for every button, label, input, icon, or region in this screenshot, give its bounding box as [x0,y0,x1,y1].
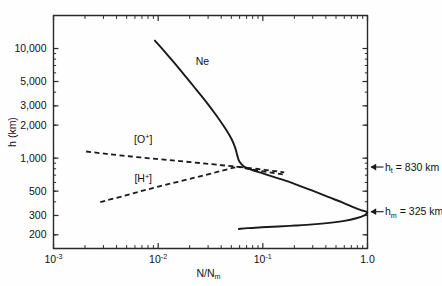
x-tick-label: 10-1 [254,252,272,265]
ionosphere-profile-figure: 10,0005,0003,0002,0001,00050030020010-31… [0,0,442,286]
x-axis-title: N/Nm [196,267,220,282]
chart-canvas: 10,0005,0003,0002,0001,00050030020010-31… [0,0,442,286]
series-label-oplus: [O+] [134,132,152,145]
y-tick-label: 10,000 [14,42,46,54]
y-tick-label: 300 [29,209,47,221]
y-tick-label: 1,000 [20,152,46,164]
annotation-arrow-head [371,164,377,171]
y-tick-label: 5,000 [20,75,46,87]
series-label-ne: Ne [196,55,210,67]
annotation-label-peak-height: hm = 325 km [385,205,442,220]
y-tick-label: 3,000 [20,99,46,111]
y-axis-title: h (km) [6,117,18,147]
annotation-arrow-head [371,208,377,215]
x-tick-label: 10-2 [149,252,167,265]
x-tick-label: 10-3 [44,252,62,265]
annotation-label-transition-height: ht = 830 km [385,161,439,176]
y-tick-label: 2,000 [20,119,46,131]
series-label-hplus: [H+] [134,172,152,185]
y-tick-label: 500 [29,185,47,197]
plot-frame [54,16,368,249]
y-tick-label: 200 [29,228,47,240]
series-curve-ne [155,41,367,229]
x-tick-label: 1.0 [360,253,375,265]
